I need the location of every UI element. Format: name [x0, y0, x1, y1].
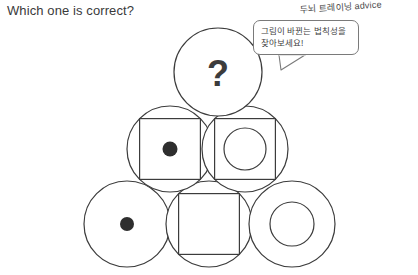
- filled-dot-icon: [120, 217, 134, 231]
- cell-bottom-left: [84, 181, 170, 267]
- advice-speech-bubble: 그림이 바뀐는 법칙성을 찾아보세요!: [253, 20, 359, 55]
- cell-bottom-middle: [166, 181, 252, 267]
- cell-bottom-right: [249, 181, 335, 267]
- bubble-line-1: 그림이 바뀐는 법칙성을: [261, 26, 352, 38]
- circle-outline: [249, 181, 335, 267]
- cell-middle-left: [127, 106, 213, 192]
- cell-top: ?: [174, 28, 262, 116]
- bubble-line-2: 찾아보세요!: [261, 38, 352, 50]
- cell-middle-right: [202, 106, 288, 192]
- speech-bubble-tail: [277, 54, 307, 71]
- filled-dot-icon: [163, 142, 178, 157]
- question-mark-icon: ?: [207, 53, 229, 94]
